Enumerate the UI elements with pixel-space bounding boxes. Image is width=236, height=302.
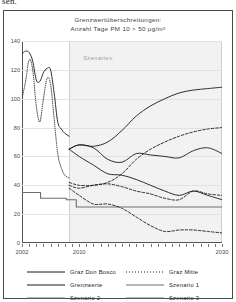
x-tick-label: 2010: [73, 249, 86, 255]
series-line: [69, 188, 222, 233]
legend-line-icon: [125, 294, 165, 301]
legend-label: Graz Mitte: [169, 269, 198, 275]
figure-page: sen. Grenzwertüberschreitungen: Anzahl T…: [0, 0, 236, 302]
legend-item[interactable]: Szenario 2: [26, 293, 119, 302]
legend-line-icon: [26, 268, 66, 275]
x-tick-mark: [158, 244, 159, 247]
x-tick-mark: [179, 244, 180, 247]
figure-frame: Grenzwertüberschreitungen: Anzahl Tage P…: [3, 10, 233, 299]
y-tick-label: 100: [11, 96, 20, 102]
x-tick-mark: [36, 244, 37, 247]
x-tick-mark: [143, 244, 144, 247]
x-tick-mark: [29, 244, 30, 247]
y-tick-label: 60: [14, 153, 20, 159]
legend-line-icon: [26, 294, 66, 301]
legend-item[interactable]: Szenario 1: [125, 280, 218, 289]
chart-title-line-2: Anzahl Tage PM 10 > 50 µg/m³: [4, 24, 232, 33]
x-tick-mark: [22, 244, 23, 247]
chart-legend: Graz Don BoscoGraz MitteGrenzwerteSzenar…: [26, 267, 218, 302]
x-tick-mark: [86, 244, 87, 247]
x-tick-mark: [122, 244, 123, 247]
x-tick-mark: [172, 244, 173, 247]
legend-label: Graz Don Bosco: [70, 269, 116, 275]
x-tick-label: 2030: [216, 249, 229, 255]
series-line: [22, 193, 222, 207]
legend-item[interactable]: Graz Don Bosco: [26, 267, 119, 276]
y-tick-label: 20: [14, 211, 20, 217]
x-tick-mark: [222, 244, 223, 247]
legend-label: Szenario 3: [169, 295, 199, 301]
x-tick-mark: [208, 244, 209, 247]
x-tick-mark: [108, 244, 109, 247]
series-line: [69, 87, 222, 149]
series-line: [69, 145, 222, 163]
x-axis-ticks: 200220102030: [22, 249, 222, 259]
y-tick-label: 0: [17, 240, 20, 246]
series-line: [69, 149, 222, 200]
x-tick-mark: [136, 244, 137, 247]
y-axis-ticks: 020406080100120140: [4, 41, 20, 243]
legend-label: Szenario 2: [70, 295, 100, 301]
x-tick-mark: [51, 244, 52, 247]
legend-item[interactable]: Szenario 3: [125, 293, 218, 302]
series-line: [69, 128, 222, 186]
x-tick-mark: [43, 244, 44, 247]
x-tick-mark: [215, 244, 216, 247]
y-tick-label: 120: [11, 67, 20, 73]
legend-line-icon: [125, 281, 165, 288]
legend-line-icon: [26, 281, 66, 288]
y-tick-label: 80: [14, 125, 20, 131]
x-tick-mark: [186, 244, 187, 247]
chart-curves: [22, 41, 222, 243]
legend-item[interactable]: Grenzwerte: [26, 280, 119, 289]
cut-off-body-text: sen.: [2, 0, 17, 6]
legend-label: Grenzwerte: [70, 282, 102, 288]
chart-title-line-1: Grenzwertüberschreitungen:: [4, 15, 232, 24]
series-line: [22, 59, 69, 178]
series-line: [22, 51, 69, 136]
y-tick-label: 140: [11, 38, 20, 44]
legend-item[interactable]: Graz Mitte: [125, 267, 218, 276]
legend-label: Szenario 1: [169, 282, 199, 288]
x-tick-mark: [193, 244, 194, 247]
x-tick-mark: [58, 244, 59, 247]
x-tick-mark: [72, 244, 73, 247]
x-tick-mark: [115, 244, 116, 247]
x-tick-mark: [101, 244, 102, 247]
y-tick-label: 40: [14, 182, 20, 188]
chart-title-block: Grenzwertüberschreitungen: Anzahl Tage P…: [4, 15, 232, 33]
x-tick-mark: [165, 244, 166, 247]
x-tick-mark: [79, 244, 80, 247]
x-tick-mark: [93, 244, 94, 247]
x-tick-mark: [151, 244, 152, 247]
x-tick-mark: [65, 244, 66, 247]
x-tick-mark: [201, 244, 202, 247]
legend-line-icon: [125, 268, 165, 275]
x-tick-mark: [129, 244, 130, 247]
plot-area: Szenarien: [22, 41, 222, 243]
x-tick-label: 2002: [16, 249, 29, 255]
